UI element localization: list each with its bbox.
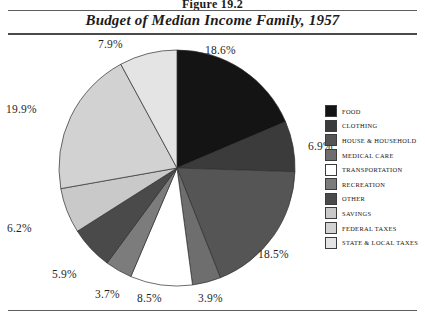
legend-item: TRANSPORTATION bbox=[325, 162, 425, 177]
legend-item-label: HOUSE & HOUSEHOLD bbox=[342, 137, 416, 144]
chart-legend: FOODCLOTHINGHOUSE & HOUSEHOLDMEDICAL CAR… bbox=[325, 104, 425, 250]
legend-item: SAVINGS bbox=[325, 206, 425, 221]
pie-percentage-label: 8.5% bbox=[137, 292, 162, 304]
legend-color-swatch bbox=[325, 222, 337, 234]
divider-under-title bbox=[8, 33, 417, 35]
pie-percentage-label: 7.9% bbox=[98, 38, 123, 50]
legend-item: CLOTHING bbox=[325, 119, 425, 134]
legend-item-label: MEDICAL CARE bbox=[342, 152, 394, 159]
legend-color-swatch bbox=[325, 237, 337, 249]
legend-color-swatch bbox=[325, 178, 337, 190]
pie-percentage-label: 5.9% bbox=[52, 268, 77, 280]
divider-bottom bbox=[8, 310, 417, 311]
legend-color-swatch bbox=[325, 134, 337, 146]
legend-item-label: RECREATION bbox=[342, 181, 385, 188]
legend-item-label: SAVINGS bbox=[342, 210, 371, 217]
legend-item: MEDICAL CARE bbox=[325, 148, 425, 163]
divider-top bbox=[8, 10, 417, 11]
legend-item-label: STATE & LOCAL TAXES bbox=[342, 239, 418, 246]
legend-item-label: FOOD bbox=[342, 108, 361, 115]
legend-color-swatch bbox=[325, 193, 337, 205]
pie-percentage-label: 19.9% bbox=[6, 103, 37, 115]
legend-item: STATE & LOCAL TAXES bbox=[325, 235, 425, 250]
pie-percentage-label: 6.2% bbox=[7, 222, 32, 234]
chart-title: Budget of Median Income Family, 1957 bbox=[0, 12, 425, 29]
legend-color-swatch bbox=[325, 164, 337, 176]
legend-item: OTHER bbox=[325, 192, 425, 207]
pie-percentage-label: 18.6% bbox=[205, 44, 236, 56]
legend-item-label: OTHER bbox=[342, 195, 365, 202]
legend-item: HOUSE & HOUSEHOLD bbox=[325, 133, 425, 148]
legend-color-swatch bbox=[325, 120, 337, 132]
legend-color-swatch bbox=[325, 105, 337, 117]
pie-percentage-label: 18.5% bbox=[258, 248, 289, 260]
legend-item-label: TRANSPORTATION bbox=[342, 166, 402, 173]
legend-item: FOOD bbox=[325, 104, 425, 119]
legend-item-label: FEDERAL TAXES bbox=[342, 225, 397, 232]
legend-item-label: CLOTHING bbox=[342, 122, 377, 129]
pie-percentage-label: 3.7% bbox=[95, 288, 120, 300]
pie-percentage-label: 3.9% bbox=[198, 292, 223, 304]
legend-item: FEDERAL TAXES bbox=[325, 221, 425, 236]
legend-color-swatch bbox=[325, 149, 337, 161]
legend-color-swatch bbox=[325, 207, 337, 219]
legend-item: RECREATION bbox=[325, 177, 425, 192]
